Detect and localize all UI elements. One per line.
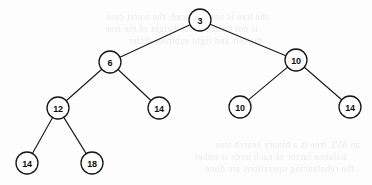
binary-tree-figure: the tree is not balanced, the worst case… — [0, 0, 372, 185]
tree-node-label: 14 — [154, 104, 164, 114]
tree-node-label: 12 — [53, 104, 63, 114]
binary-tree-canvas: 3610121410141418 — [0, 0, 372, 185]
tree-node: 14 — [148, 97, 170, 119]
tree-node-label: 3 — [198, 16, 203, 26]
tree-node-label: 14 — [345, 103, 355, 113]
tree-node: 6 — [99, 51, 121, 73]
tree-node-label: 10 — [291, 56, 301, 66]
tree-edge — [210, 24, 286, 56]
node-group: 3610121410141418 — [16, 9, 361, 174]
tree-node: 14 — [16, 152, 38, 174]
tree-edge — [304, 67, 341, 100]
tree-edge — [64, 117, 86, 153]
tree-node: 14 — [339, 96, 361, 118]
tree-edge — [120, 25, 190, 58]
tree-node: 18 — [81, 152, 103, 174]
tree-node: 10 — [229, 96, 251, 118]
tree-node-label: 6 — [108, 58, 113, 68]
edge-group — [32, 24, 341, 153]
tree-edge — [118, 70, 151, 101]
tree-edge — [32, 118, 52, 154]
tree-node: 12 — [47, 97, 69, 119]
tree-node-label: 18 — [87, 159, 97, 169]
tree-node: 3 — [189, 9, 211, 31]
tree-node-label: 10 — [235, 103, 245, 113]
tree-edge — [248, 67, 287, 100]
tree-edge — [66, 69, 102, 100]
tree-node-label: 14 — [22, 159, 32, 169]
tree-node: 10 — [285, 49, 307, 71]
